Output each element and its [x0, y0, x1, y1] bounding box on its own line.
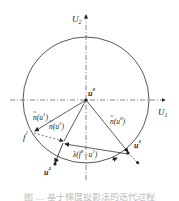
- f1-to-u2-projection: [34, 133, 63, 141]
- diagram-canvas: U2 U1 u0 u1 u2 f1 n(u1) n(u2) n(u0) λ(f0…: [0, 0, 179, 201]
- figure-caption: 图 … 基于梯度投影法的迭代过程: [0, 193, 179, 201]
- label-u0: u0: [88, 87, 95, 98]
- point-u0: [84, 98, 87, 101]
- arc-direction-arrow: [112, 158, 117, 160]
- label-lambda: λ(f0−u1): [72, 149, 98, 159]
- vector-n-u2: [64, 100, 86, 141]
- outward-u1: [128, 153, 139, 164]
- label-u2: u2: [44, 166, 51, 177]
- u2-axis-label: U2: [72, 14, 82, 25]
- vector-n-u0: [86, 100, 128, 152]
- label-u1: u1: [134, 139, 141, 150]
- label-f1: f1: [23, 130, 28, 142]
- u1-axis-label: U1: [158, 107, 168, 118]
- point-u1: [126, 151, 129, 154]
- point-u2: [53, 162, 56, 165]
- descent-to-u2: [55, 143, 63, 163]
